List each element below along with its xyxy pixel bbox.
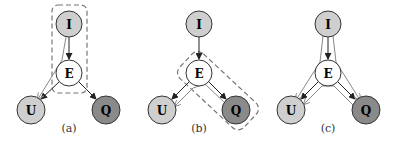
node-u: U [277, 96, 305, 124]
node-i: I [315, 11, 341, 37]
node-u: U [17, 96, 45, 124]
caption-a: (a) [61, 122, 76, 135]
panel-c: I E U Q (c) [277, 11, 380, 135]
node-label: U [286, 104, 297, 118]
panel-b: I E U Q (b) [148, 11, 262, 135]
caption-c: (c) [321, 122, 336, 135]
node-label: I [196, 18, 202, 32]
node-label: Q [101, 104, 111, 118]
node-label: E [194, 67, 203, 81]
caption-b: (b) [191, 122, 207, 135]
edge-e-u [172, 82, 189, 99]
node-e: E [56, 60, 82, 86]
edge-e-q [338, 82, 355, 99]
node-label: U [157, 104, 168, 118]
node-label: E [64, 67, 73, 81]
node-q: Q [92, 96, 120, 124]
node-q: Q [222, 96, 250, 124]
node-q: Q [352, 96, 380, 124]
node-e: E [186, 60, 212, 86]
node-label: E [323, 67, 332, 81]
panel-a: I E U Q (a) [17, 5, 120, 135]
node-i: I [186, 11, 212, 37]
node-e: E [315, 60, 341, 86]
node-u: U [148, 96, 176, 124]
node-label: I [325, 18, 331, 32]
node-label: I [66, 18, 72, 32]
node-i: I [56, 11, 82, 37]
node-label: Q [231, 104, 241, 118]
grad-path-q-u [175, 84, 226, 106]
edge-e-u [301, 82, 318, 99]
node-label: U [26, 104, 37, 118]
diagram-canvas: I E U Q (a) I E [0, 0, 398, 143]
node-label: Q [361, 104, 371, 118]
